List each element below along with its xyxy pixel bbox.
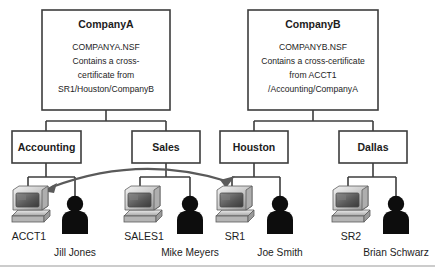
- server-label-sr2: SR2: [341, 230, 362, 242]
- ou-box-dallas[interactable]: Dallas: [339, 131, 407, 163]
- org-detail-companyb-line1: COMPANYB.NSF: [279, 42, 347, 52]
- org-title-companyb: CompanyB: [285, 18, 341, 30]
- person-label-joe-smith: Joe Smith: [257, 247, 302, 258]
- endpoint-sales1[interactable]: SALES1 Mike Meyers: [124, 186, 219, 258]
- server-label-sales1: SALES1: [124, 230, 164, 242]
- person-icon-jill-jones: [62, 196, 88, 234]
- server-label-acct1: ACCT1: [12, 230, 47, 242]
- ou-label-dallas: Dallas: [358, 141, 389, 153]
- ou-box-houston[interactable]: Houston: [220, 131, 288, 163]
- endpoint-sr2[interactable]: SR2 Brian Schwarz: [332, 186, 429, 258]
- server-label-sr1: SR1: [225, 230, 246, 242]
- org-title-companya: CompanyA: [78, 18, 134, 30]
- connector-companyb-tree: [254, 110, 373, 131]
- computer-icon-sales1: [124, 186, 162, 222]
- ou-box-accounting[interactable]: Accounting: [12, 131, 81, 163]
- endpoint-sr1[interactable]: SR1 Joe Smith: [216, 186, 303, 258]
- person-icon-mike-meyers: [177, 196, 203, 234]
- person-label-brian-schwarz: Brian Schwarz: [363, 247, 429, 258]
- computer-icon-acct1: [12, 186, 50, 222]
- org-detail-companya-line2: Contains a cross-: [73, 56, 140, 66]
- person-icon-joe-smith: [267, 196, 293, 234]
- org-detail-companya-line1: COMPANYA.NSF: [72, 42, 139, 52]
- org-detail-companyb-line3: from ACCT1: [289, 70, 336, 80]
- org-detail-companyb-line2: Contains a cross-certificate: [261, 56, 365, 66]
- ou-label-sales: Sales: [152, 141, 180, 153]
- person-label-jill-jones: Jill Jones: [54, 247, 96, 258]
- org-box-companyb[interactable]: CompanyB COMPANYB.NSF Contains a cross-c…: [248, 10, 378, 110]
- cross-certificate-diagram: CompanyA COMPANYA.NSF Contains a cross- …: [0, 0, 435, 273]
- person-label-mike-meyers: Mike Meyers: [161, 247, 219, 258]
- org-detail-companya-line3: certificate from: [78, 70, 134, 80]
- ou-label-accounting: Accounting: [18, 141, 76, 153]
- computer-icon-sr2: [332, 186, 370, 222]
- computer-icon-sr1: [216, 186, 254, 222]
- org-detail-companya-line4: SR1/Houston/CompanyB: [58, 84, 154, 94]
- org-box-companya[interactable]: CompanyA COMPANYA.NSF Contains a cross- …: [42, 10, 170, 110]
- diagram-canvas: CompanyA COMPANYA.NSF Contains a cross- …: [0, 0, 435, 273]
- org-detail-companyb-line4: /Accounting/CompanyA: [268, 84, 358, 94]
- person-icon-brian-schwarz: [383, 196, 409, 234]
- endpoint-acct1[interactable]: ACCT1 Jill Jones: [12, 186, 96, 258]
- connector-companya-tree: [46, 110, 166, 131]
- ou-label-houston: Houston: [233, 141, 276, 153]
- ou-box-sales[interactable]: Sales: [132, 131, 200, 163]
